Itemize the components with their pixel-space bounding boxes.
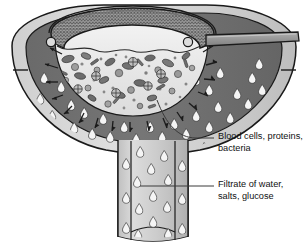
blood-cells-label-line1: Blood cells, proteins,	[218, 131, 303, 143]
filtrate-label-line2: salts, glucose	[218, 191, 283, 203]
right-rim-knob	[183, 37, 192, 46]
filtration-diagram	[0, 0, 307, 244]
filtrate-label: Filtrate of water, salts, glucose	[218, 179, 283, 202]
blood-cells-label: Blood cells, proteins, bacteria	[218, 131, 303, 154]
left-rim-knob	[46, 37, 55, 46]
filtrate-label-line1: Filtrate of water,	[218, 179, 283, 191]
kidney-filtration-figure: Blood cells, proteins, bacteria Filtrate…	[0, 0, 307, 244]
blood-cells-label-line2: bacteria	[218, 143, 303, 155]
